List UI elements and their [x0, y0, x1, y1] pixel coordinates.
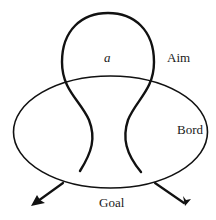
goal-label: Goal	[99, 195, 125, 210]
aim-label: Aim	[167, 50, 190, 65]
right-arrow-line	[155, 183, 184, 203]
aim-goal-diagram: a Aim Bord Goal	[0, 0, 216, 220]
inner-label: a	[104, 50, 111, 65]
bord-label: Bord	[177, 122, 204, 137]
aim-loop	[62, 13, 154, 172]
left-arrow-line	[38, 183, 63, 201]
right-arrowhead-icon	[183, 196, 191, 206]
